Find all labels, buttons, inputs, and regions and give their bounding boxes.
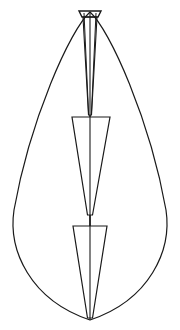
teardrop-segment-diagram bbox=[0, 0, 180, 330]
figure-canvas bbox=[0, 0, 180, 330]
